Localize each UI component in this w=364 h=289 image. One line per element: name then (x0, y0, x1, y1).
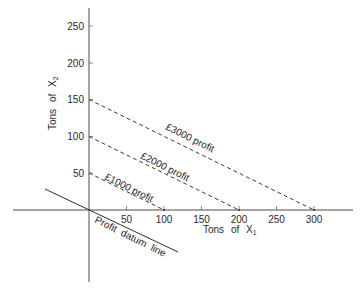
y-tick-label: 200 (67, 58, 84, 69)
x-axis-title: Tons of X1 (203, 224, 257, 236)
y-tick-label: 100 (67, 131, 84, 142)
y-tick-label: 150 (67, 94, 84, 105)
y-tick-label: 50 (73, 168, 85, 179)
intercept-marker (238, 209, 240, 211)
intercept-marker (313, 209, 315, 211)
intercept-marker (163, 209, 165, 211)
x-tick-label: 50 (121, 214, 133, 225)
iso-profit-diagram: 50 100 150 200 250 300 50 100 150 200 25… (0, 0, 364, 289)
x-tick-label: 300 (306, 214, 323, 225)
iso-profit-label-2000: £2000 profit (139, 150, 191, 184)
x-tick-label: 250 (268, 214, 285, 225)
y-tick-label: 250 (67, 21, 84, 32)
x-ticks (127, 206, 315, 210)
x-tick-label: 100 (156, 214, 173, 225)
iso-profit-line-3000 (89, 100, 314, 211)
y-axis-title: Tons of X2 (47, 76, 59, 130)
y-tick-labels: 50 100 150 200 250 (67, 21, 84, 179)
iso-profit-label-1000: £1000 profit (103, 171, 155, 205)
